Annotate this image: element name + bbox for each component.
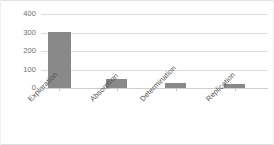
x-axis-label-determination: Determination <box>138 64 178 104</box>
x-axis-label-absorption: Absorption <box>88 71 120 103</box>
x-axis-label-exploration: Exploration <box>26 70 59 103</box>
bar-chart: 400 300 200 100 0 Exploration Absorption… <box>0 0 274 145</box>
x-axis-category-labels: Exploration Absorption Determination Rep… <box>0 0 274 145</box>
x-axis-label-replication: Replication <box>204 70 237 103</box>
